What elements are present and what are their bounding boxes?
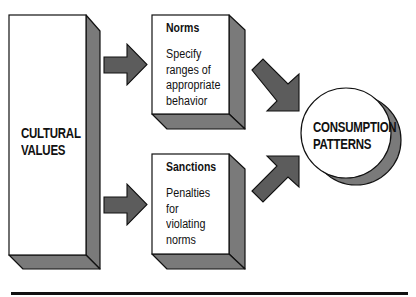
norms-body: Specify ranges of appropriate behavior (166, 47, 220, 109)
cultural-values-line1: CULTURAL (21, 125, 81, 142)
consumption-patterns-line1: CONSUMPTION (313, 119, 396, 136)
consumption-patterns-line2: PATTERNS (313, 136, 396, 153)
norms-body-line: ranges of (166, 63, 220, 79)
sanctions-body-line: norms (166, 233, 217, 249)
arrow-right-to-norms-icon (104, 44, 147, 85)
sanctions-box-side (229, 154, 245, 269)
sanctions-text: Sanctions Penalties for violating norms (166, 160, 226, 248)
norms-body-line: behavior (166, 94, 220, 110)
cultural-values-box-side (86, 15, 100, 269)
sanctions-body-line: Penalties (166, 186, 217, 202)
sanctions-body-line: violating (166, 217, 217, 233)
arrow-right-to-sanctions-icon (104, 184, 147, 225)
norms-title: Norms (166, 21, 219, 36)
sanctions-box-bottom (152, 254, 245, 269)
cultural-values-label: CULTURAL VALUES (21, 125, 81, 159)
sanctions-title: Sanctions (166, 160, 216, 175)
sanctions-body-line: for (166, 202, 217, 218)
norms-text: Norms Specify ranges of appropriate beha… (166, 21, 229, 109)
norms-body-line: appropriate (166, 78, 220, 94)
arrow-down-right-to-consumption-icon (252, 59, 299, 111)
sanctions-body: Penalties for violating norms (166, 186, 217, 248)
norms-body-line: Specify (166, 47, 220, 63)
norms-box-side (229, 15, 245, 129)
arrow-up-right-to-consumption-icon (252, 156, 299, 202)
consumption-patterns-label: CONSUMPTION PATTERNS (313, 119, 396, 153)
cultural-values-box-bottom (9, 255, 100, 269)
cultural-values-line2: VALUES (21, 142, 81, 159)
norms-box-bottom (152, 114, 245, 129)
bottom-rule-divider (11, 292, 408, 295)
